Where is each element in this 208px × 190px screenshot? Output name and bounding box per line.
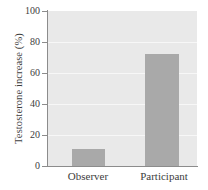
y-tick-label-20: 20 bbox=[10, 130, 40, 140]
y-axis-title: Testosterone increase (%) bbox=[13, 9, 24, 169]
y-tick-mark-20 bbox=[42, 135, 47, 136]
bar-participant bbox=[145, 54, 179, 166]
y-tick-mark-40 bbox=[42, 104, 47, 105]
bar-observer bbox=[72, 149, 105, 166]
y-tick-label-40: 40 bbox=[10, 99, 40, 109]
y-tick-label-80: 80 bbox=[10, 37, 40, 47]
y-tick-mark-0 bbox=[42, 166, 47, 167]
x-axis-line bbox=[47, 166, 198, 167]
y-axis-line bbox=[47, 10, 48, 167]
plot-area bbox=[48, 11, 197, 166]
y-tick-label-0: 0 bbox=[10, 161, 40, 171]
y-tick-mark-60 bbox=[42, 73, 47, 74]
x-tick-label-participant: Participant bbox=[126, 170, 202, 182]
gridline-80 bbox=[48, 42, 197, 43]
x-tick-label-observer: Observer bbox=[55, 170, 121, 182]
y-tick-mark-100 bbox=[42, 11, 47, 12]
bar-chart-figure: Testosterone increase (%) 100 80 60 40 2… bbox=[0, 0, 208, 190]
y-tick-label-100: 100 bbox=[10, 6, 40, 16]
y-tick-label-60: 60 bbox=[10, 68, 40, 78]
y-tick-mark-80 bbox=[42, 42, 47, 43]
